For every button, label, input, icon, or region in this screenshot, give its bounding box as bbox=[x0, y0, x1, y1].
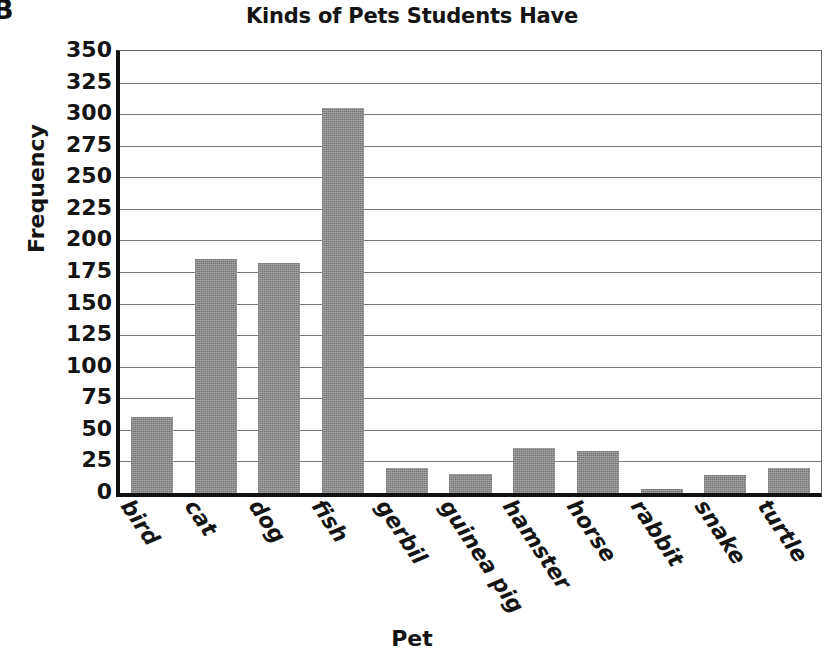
bar bbox=[768, 468, 810, 493]
x-tick-label: turtle bbox=[754, 496, 811, 566]
y-tick-label: 100 bbox=[2, 355, 112, 377]
bar bbox=[513, 448, 555, 493]
plot-area bbox=[116, 50, 822, 497]
bar bbox=[131, 417, 173, 493]
y-tick-label: 225 bbox=[2, 197, 112, 219]
gridline bbox=[120, 209, 821, 210]
chart-title: Kinds of Pets Students Have bbox=[0, 4, 824, 28]
gridline bbox=[120, 240, 821, 241]
y-tick-label: 325 bbox=[2, 71, 112, 93]
bar bbox=[322, 108, 364, 493]
gridline bbox=[120, 177, 821, 178]
y-tick-label: 125 bbox=[2, 323, 112, 345]
bar bbox=[258, 263, 300, 493]
y-tick-label: 200 bbox=[2, 228, 112, 250]
bar bbox=[449, 474, 491, 493]
y-tick-label: 0 bbox=[2, 481, 112, 503]
x-tick-label: cat bbox=[181, 496, 221, 540]
y-tick-label: 275 bbox=[2, 134, 112, 156]
x-axis-tick-labels: birdcatdogfishgerbilguinea pighamsterhor… bbox=[116, 496, 817, 616]
gridline bbox=[120, 83, 821, 84]
x-tick-label: fish bbox=[308, 496, 352, 547]
bar bbox=[704, 475, 746, 493]
x-tick-label: bird bbox=[117, 496, 163, 550]
x-tick-label: dog bbox=[244, 496, 288, 547]
bar bbox=[195, 259, 237, 493]
x-axis-label: Pet bbox=[0, 628, 824, 649]
bar bbox=[577, 451, 619, 493]
x-tick-label: horse bbox=[563, 496, 620, 566]
x-tick-label: gerbil bbox=[372, 496, 431, 568]
y-tick-label: 350 bbox=[2, 39, 112, 61]
y-tick-label: 25 bbox=[2, 449, 112, 471]
y-axis-tick-labels: 3503253002752502252001751501251007550250 bbox=[0, 50, 112, 492]
gridline bbox=[120, 114, 821, 115]
bar bbox=[641, 489, 683, 493]
x-tick-label: rabbit bbox=[627, 496, 687, 571]
y-tick-label: 50 bbox=[2, 418, 112, 440]
chart-page: B Kinds of Pets Students Have Frequency … bbox=[0, 0, 824, 649]
gridline bbox=[120, 146, 821, 147]
y-tick-label: 300 bbox=[2, 102, 112, 124]
y-tick-label: 150 bbox=[2, 292, 112, 314]
y-tick-label: 250 bbox=[2, 165, 112, 187]
bar bbox=[386, 468, 428, 493]
x-tick-label: snake bbox=[690, 496, 749, 568]
y-tick-label: 75 bbox=[2, 386, 112, 408]
y-tick-label: 175 bbox=[2, 260, 112, 282]
